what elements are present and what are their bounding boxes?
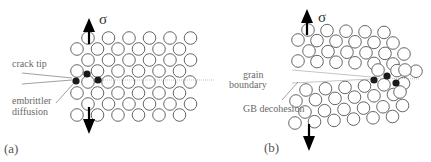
crack-tip-leader-lower: [22, 80, 72, 84]
lattice-atom: [164, 32, 177, 45]
lattice-atom: [143, 76, 156, 89]
lattice-atom: [394, 86, 407, 99]
lattice-atom: [153, 65, 166, 78]
gb-decohesion-label: GB decohesion: [243, 103, 304, 114]
lattice-atom: [102, 54, 115, 67]
lattice-atom: [300, 84, 313, 97]
stress-arrow-down-icon: [303, 136, 315, 151]
lattice-atom: [329, 92, 342, 105]
lattice-atom: [82, 54, 95, 67]
lattice-atom: [173, 43, 186, 56]
lattice-atom: [132, 109, 145, 122]
lattice-atom: [292, 34, 305, 47]
lattice-atom: [102, 98, 115, 111]
lattice-atom: [359, 26, 372, 39]
lattice-atom: [396, 99, 409, 112]
lattice-atom: [378, 26, 391, 39]
lattice-atom: [379, 47, 392, 60]
lattice-atom: [91, 87, 104, 100]
lattice-atom: [112, 87, 125, 100]
lattice-atom: [173, 65, 186, 78]
lattice-atom: [289, 117, 302, 130]
grain-boundary-extension: [372, 78, 420, 79]
lattice-atom: [153, 43, 166, 56]
lattice-atom: [153, 87, 166, 100]
crack-tip-leader-upper: [22, 73, 72, 78]
lattice-atom: [123, 98, 136, 111]
lattice-atom: [358, 80, 371, 93]
lattice-atom: [123, 54, 136, 67]
lattice-atom: [173, 109, 186, 122]
lattice-atom: [71, 43, 84, 56]
lattice-atom: [132, 87, 145, 100]
lattice-atom: [340, 25, 353, 38]
lattice-atom: [123, 32, 136, 45]
lattice-atom: [311, 55, 324, 68]
lattice-atom: [311, 34, 324, 47]
lattice-atom: [71, 65, 84, 78]
lattice-atom: [399, 64, 412, 77]
lattice-atom: [163, 76, 176, 89]
lattice-atom: [143, 32, 156, 45]
panel-a: crack tip embrittler diffusion σ (a): [4, 11, 215, 156]
lattice-atom: [102, 32, 115, 45]
sigma-label: σ: [99, 11, 107, 27]
lattice-atom: [82, 76, 95, 89]
sigma-label: σ: [318, 9, 326, 25]
lattice-atom: [184, 54, 197, 67]
panel-label-b: (b): [264, 140, 279, 155]
lattice-atom: [132, 65, 145, 78]
lattice-atom: [387, 37, 400, 50]
crack-tip-label: crack tip: [12, 58, 47, 69]
lattice-atom: [112, 109, 125, 122]
lattice-atom: [91, 43, 104, 56]
lattice-atom: [143, 98, 156, 111]
atom-lattice-b: [289, 24, 423, 130]
lattice-atom: [339, 81, 352, 94]
diffusion-label: diffusion: [12, 106, 48, 117]
stress-arrow-up-icon: [301, 9, 313, 23]
lattice-atom: [184, 98, 197, 111]
lattice-atom: [318, 104, 331, 117]
lattice-atom: [349, 36, 362, 49]
embrittler-atom: [370, 76, 377, 83]
lattice-atom: [319, 82, 332, 95]
lattice-atom: [164, 54, 177, 67]
lattice-atom: [348, 91, 361, 104]
embrittler-label: embrittler: [12, 95, 52, 106]
lattice-atom: [122, 76, 135, 89]
lattice-atom: [378, 79, 391, 92]
lattice-atom: [112, 43, 125, 56]
lattice-atom: [349, 57, 362, 70]
lattice-atom: [184, 32, 197, 45]
stress-arrow-up-icon: [83, 18, 95, 32]
lattice-atom: [341, 46, 354, 59]
lattice-atom: [368, 90, 381, 103]
lattice-atom: [386, 110, 399, 123]
lattice-atom: [322, 45, 335, 58]
lattice-atom: [321, 24, 334, 37]
boundary-label: boundary: [229, 79, 267, 90]
stress-arrow-down-icon: [83, 119, 95, 134]
lattice-atom: [143, 54, 156, 67]
lattice-atom: [71, 87, 84, 100]
lattice-atom: [330, 56, 343, 69]
panel-label-a: (a): [4, 141, 18, 156]
lattice-atom: [292, 55, 305, 68]
lattice-atom: [372, 64, 385, 77]
embrittler-atom: [72, 77, 79, 84]
lattice-atom: [309, 93, 322, 106]
lattice-atom: [398, 48, 411, 61]
lattice-atom: [330, 35, 343, 48]
lattice-atom: [347, 113, 360, 126]
lattice-atom: [338, 103, 351, 116]
lattice-atom: [377, 101, 390, 114]
lattice-atom: [164, 98, 177, 111]
panel-b: grain boundary GB decohesion σ (b): [229, 9, 422, 155]
embrittlement-diagram: crack tip embrittler diffusion σ (a) gra…: [0, 0, 431, 162]
lattice-atom: [184, 76, 197, 89]
embrittler-atom: [94, 76, 101, 83]
lattice-atom: [303, 45, 316, 58]
lattice-atom: [360, 47, 373, 60]
lattice-atom: [71, 109, 84, 122]
